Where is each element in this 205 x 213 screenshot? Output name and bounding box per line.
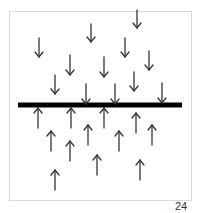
arrow-up-icon [34, 108, 42, 128]
arrow-up-icon [84, 125, 92, 145]
arrow-up-icon [115, 131, 123, 151]
arrow-up-icon [51, 170, 59, 190]
arrow-down-icon [51, 75, 59, 94]
arrow-down-icon [87, 24, 95, 42]
page-number: 24 [175, 200, 187, 212]
arrow-up-icon [93, 155, 101, 175]
arrow-down-icon [111, 84, 119, 104]
arrow-up-icon [132, 113, 140, 133]
force-diagram [0, 0, 205, 213]
arrow-up-icon [136, 160, 144, 180]
arrow-up-icon [47, 131, 55, 151]
arrow-down-icon [158, 83, 166, 103]
arrow-up-icon [100, 108, 108, 128]
arrow-down-icon [145, 51, 153, 70]
arrow-down-icon [130, 72, 138, 91]
arrow-up-icon [148, 125, 156, 145]
arrow-up-icon [67, 108, 75, 128]
arrow-down-icon [133, 10, 141, 28]
arrow-down-icon [82, 84, 90, 104]
arrow-down-icon [121, 38, 129, 57]
arrow-down-icon [66, 55, 74, 75]
arrow-up-icon [66, 141, 74, 161]
arrow-down-icon [35, 38, 43, 57]
arrow-down-icon [100, 57, 108, 77]
